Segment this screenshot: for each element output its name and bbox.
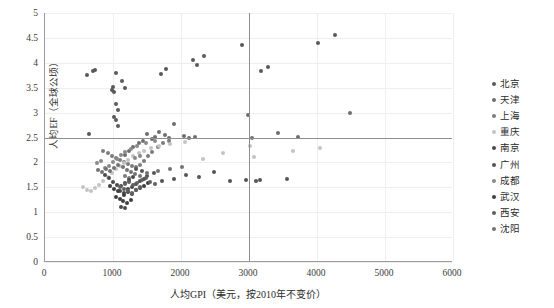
legend-item-3[interactable]: 重庆 bbox=[492, 124, 552, 140]
data-point bbox=[348, 111, 352, 115]
scatter-chart: 00.511.522.533.544.550100020003000400050… bbox=[0, 0, 554, 308]
data-point bbox=[266, 65, 270, 69]
data-point bbox=[146, 154, 150, 158]
legend-label: 沈阳 bbox=[500, 224, 520, 234]
data-point bbox=[134, 167, 138, 171]
y-axis-tick-label: 1 bbox=[4, 207, 38, 217]
data-point bbox=[258, 178, 262, 182]
data-point bbox=[114, 118, 118, 122]
legend-label: 天津 bbox=[500, 95, 520, 105]
data-point bbox=[156, 169, 160, 173]
data-point bbox=[129, 198, 133, 202]
data-point bbox=[116, 124, 120, 128]
data-point bbox=[157, 144, 161, 148]
legend-item-6[interactable]: 成都 bbox=[492, 173, 552, 189]
data-point bbox=[144, 141, 148, 145]
legend-item-8[interactable]: 西安 bbox=[492, 205, 552, 221]
data-point bbox=[180, 165, 184, 169]
data-point bbox=[142, 149, 146, 153]
x-axis-tick-label: 5000 bbox=[357, 268, 411, 278]
data-point bbox=[195, 63, 199, 67]
y-axis-tick-label: 4 bbox=[4, 58, 38, 68]
data-point bbox=[240, 43, 244, 47]
x-axis-tick-label: 0 bbox=[17, 268, 71, 278]
legend-item-4[interactable]: 南京 bbox=[492, 140, 552, 156]
data-point bbox=[202, 54, 206, 58]
data-point bbox=[197, 175, 201, 179]
data-point bbox=[112, 90, 116, 94]
legend-item-2[interactable]: 上海 bbox=[492, 108, 552, 124]
data-point bbox=[212, 170, 216, 174]
data-point bbox=[111, 160, 115, 164]
legend-item-0[interactable]: 北京 bbox=[492, 76, 552, 92]
data-point bbox=[145, 132, 149, 136]
data-point bbox=[144, 176, 148, 180]
gridline-horizontal bbox=[45, 262, 452, 263]
data-point bbox=[168, 142, 172, 146]
data-point bbox=[276, 131, 280, 135]
data-point bbox=[87, 132, 91, 136]
legend-marker-icon bbox=[492, 179, 496, 183]
y-axis-title: 人均EF（全球公顷） bbox=[46, 48, 60, 158]
data-point bbox=[101, 149, 105, 153]
data-point bbox=[221, 151, 225, 155]
data-point bbox=[163, 133, 167, 137]
y-axis-tick-label: 1.5 bbox=[4, 182, 38, 192]
legend-item-9[interactable]: 沈阳 bbox=[492, 221, 552, 237]
data-point bbox=[95, 161, 99, 165]
data-point bbox=[333, 33, 337, 37]
data-point bbox=[168, 167, 172, 171]
data-point bbox=[318, 146, 322, 150]
x-axis-tick-label: 1000 bbox=[85, 268, 139, 278]
legend-item-7[interactable]: 武汉 bbox=[492, 189, 552, 205]
data-point bbox=[85, 73, 89, 77]
legend-label: 北京 bbox=[500, 79, 520, 89]
data-point bbox=[244, 178, 248, 182]
data-point bbox=[93, 186, 97, 190]
data-point bbox=[101, 179, 105, 183]
data-point bbox=[183, 140, 187, 144]
data-point bbox=[114, 102, 118, 106]
y-axis-tick-label: 4.5 bbox=[4, 33, 38, 43]
y-axis-tick-label: 0.5 bbox=[4, 232, 38, 242]
data-point bbox=[123, 86, 127, 90]
y-axis-tick-label: 3 bbox=[4, 108, 38, 118]
data-point bbox=[164, 67, 168, 71]
data-point bbox=[97, 183, 101, 187]
legend: 北京天津上海重庆南京广州成都武汉西安沈阳 bbox=[492, 76, 552, 237]
y-axis-tick-label: 5 bbox=[4, 8, 38, 18]
legend-item-1[interactable]: 天津 bbox=[492, 92, 552, 108]
legend-marker-icon bbox=[492, 130, 496, 134]
data-point bbox=[106, 151, 110, 155]
data-point bbox=[126, 158, 130, 162]
legend-marker-icon bbox=[492, 146, 496, 150]
data-point bbox=[93, 68, 97, 72]
legend-marker-icon bbox=[492, 211, 496, 215]
legend-label: 上海 bbox=[500, 111, 520, 121]
y-axis-tick-label: 2.5 bbox=[4, 133, 38, 143]
data-point bbox=[133, 156, 137, 160]
data-point bbox=[228, 179, 232, 183]
y-axis-tick-label: 2 bbox=[4, 157, 38, 167]
data-point bbox=[252, 155, 256, 159]
data-point bbox=[150, 150, 154, 154]
data-point bbox=[285, 177, 289, 181]
y-axis-tick-label: 3.5 bbox=[4, 83, 38, 93]
data-point bbox=[159, 72, 163, 76]
legend-label: 重庆 bbox=[500, 127, 520, 137]
legend-marker-icon bbox=[492, 163, 496, 167]
legend-marker-icon bbox=[492, 114, 496, 118]
data-point bbox=[116, 108, 120, 112]
legend-item-5[interactable]: 广州 bbox=[492, 156, 552, 172]
x-axis-title: 人均GPI（美元，按2010年不变价） bbox=[44, 286, 452, 301]
data-point bbox=[191, 58, 195, 62]
data-point bbox=[148, 180, 152, 184]
data-point bbox=[138, 163, 142, 167]
data-point bbox=[114, 71, 118, 75]
data-point bbox=[89, 189, 93, 193]
legend-label: 南京 bbox=[500, 143, 520, 153]
legend-label: 武汉 bbox=[500, 192, 520, 202]
data-point bbox=[134, 188, 138, 192]
data-point bbox=[125, 201, 129, 205]
x-axis-tick-label: 2000 bbox=[153, 268, 207, 278]
